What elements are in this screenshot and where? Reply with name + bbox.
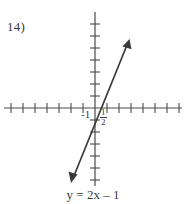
line-arrowhead-down: [69, 172, 78, 184]
fraction-denominator: 2: [100, 118, 107, 127]
equation-label: y = 2x – 1: [0, 188, 186, 201]
x-intercept-label-one-half: 1 2: [100, 108, 107, 128]
graph-problem-page: 14): [0, 0, 186, 204]
coordinate-graph: [0, 0, 186, 204]
x-axis-label-negative-one: -1: [81, 109, 90, 120]
line-arrowhead-up: [123, 39, 132, 49]
